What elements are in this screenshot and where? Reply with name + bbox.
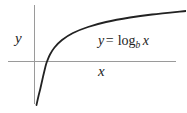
log-curve — [37, 11, 187, 105]
equation-argument: x — [143, 33, 149, 48]
x-axis-label: x — [98, 64, 105, 79]
logarithm-graph-figure: y x y=logbx — [0, 0, 186, 113]
plot-area — [0, 0, 186, 113]
equation-function: log — [118, 33, 136, 48]
equation-label: y=logbx — [98, 34, 149, 51]
equation-operator: = — [104, 33, 115, 48]
y-axis-label: y — [15, 31, 22, 46]
equation-base: b — [136, 40, 141, 50]
